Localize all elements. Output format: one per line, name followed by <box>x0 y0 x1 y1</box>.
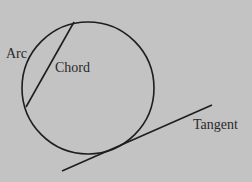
circle-diagram: Arc Chord Tangent <box>0 0 252 182</box>
arc-label: Arc <box>6 47 27 61</box>
circle <box>22 22 154 154</box>
tangent-label: Tangent <box>193 118 238 132</box>
tangent-line <box>62 105 212 171</box>
diagram-svg <box>0 0 252 182</box>
chord-label: Chord <box>55 61 90 75</box>
